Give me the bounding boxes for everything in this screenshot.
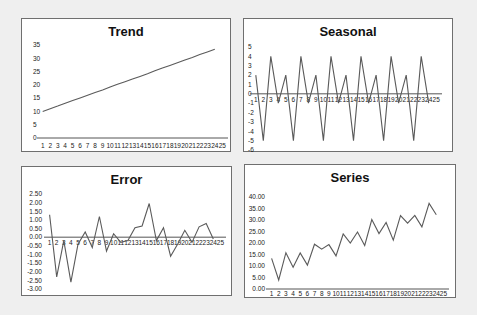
- x-tick-label: 3: [284, 290, 288, 297]
- y-tick-label: -3.00: [27, 285, 42, 292]
- x-tick-label: 4: [69, 239, 73, 246]
- y-tick-label: -4: [248, 128, 254, 135]
- x-tick-label: 25: [219, 142, 227, 149]
- y-tick-label: 0.00: [252, 285, 265, 292]
- y-tick-label: 1.00: [29, 216, 42, 223]
- x-tick-label: 4: [291, 290, 295, 297]
- y-tick-label: -0.50: [27, 242, 42, 249]
- x-tick-label: 5: [298, 290, 302, 297]
- y-tick-label: -3: [248, 118, 254, 125]
- x-tick-label: 8: [98, 239, 102, 246]
- series-plot: 0.005.0010.0015.0020.0025.0030.0035.0040…: [245, 165, 457, 299]
- x-tick-label: 13: [129, 142, 137, 149]
- y-tick-label: -2.00: [27, 268, 42, 275]
- y-tick-label: 15.00: [249, 251, 266, 258]
- y-tick-label: 15: [33, 94, 41, 101]
- y-tick-label: 1.50: [29, 208, 42, 215]
- series-chart: Series 0.005.0010.0015.0020.0025.0030.00…: [244, 164, 456, 298]
- y-tick-label: 10.00: [249, 262, 266, 269]
- x-tick-label: 2: [48, 142, 52, 149]
- x-tick-label: 20: [181, 142, 189, 149]
- x-tick-label: 23: [204, 142, 212, 149]
- y-tick-label: -2.50: [27, 277, 42, 284]
- x-tick-label: 8: [93, 142, 97, 149]
- y-tick-label: 30.00: [249, 216, 266, 223]
- x-tick-label: 9: [101, 142, 105, 149]
- x-tick-label: 9: [327, 290, 331, 297]
- trend-plot: 0510152025303512345678910111213141516171…: [22, 19, 232, 153]
- x-tick-label: 25: [217, 239, 225, 246]
- error-chart: Error 2.502.001.501.000.500.00-0.50-1.00…: [21, 166, 232, 296]
- y-tick-label: -6: [248, 146, 254, 153]
- y-tick-label: 3: [248, 62, 252, 69]
- x-tick-label: 1: [41, 142, 45, 149]
- y-tick-label: -1.50: [27, 259, 42, 266]
- x-tick-label: 5: [71, 142, 75, 149]
- y-tick-label: 35: [33, 41, 41, 48]
- x-tick-label: 9: [314, 96, 318, 103]
- x-tick-label: 6: [292, 96, 296, 103]
- x-tick-label: 21: [189, 142, 197, 149]
- y-tick-label: 20: [33, 81, 41, 88]
- x-tick-label: 7: [313, 290, 317, 297]
- x-tick-label: 1: [48, 239, 52, 246]
- y-tick-label: 20.00: [249, 239, 266, 246]
- x-tick-label: 6: [306, 290, 310, 297]
- x-tick-label: 24: [211, 142, 219, 149]
- x-tick-label: 18: [166, 142, 174, 149]
- x-tick-label: 7: [86, 142, 90, 149]
- x-tick-label: 5: [284, 96, 288, 103]
- y-tick-label: 0.00: [29, 233, 42, 240]
- y-tick-label: -1.00: [27, 251, 42, 258]
- x-tick-label: 6: [83, 239, 87, 246]
- y-tick-label: 2.00: [29, 199, 42, 206]
- x-tick-label: 12: [121, 142, 129, 149]
- y-tick-label: 2: [248, 71, 252, 78]
- data-line: [272, 203, 437, 280]
- y-tick-label: 30: [33, 55, 41, 62]
- x-tick-label: 3: [269, 96, 273, 103]
- x-tick-label: 10: [106, 142, 114, 149]
- y-tick-label: 4: [248, 53, 252, 60]
- trend-chart: Trend 0510152025303512345678910111213141…: [21, 18, 231, 152]
- x-tick-label: 2: [261, 96, 265, 103]
- x-tick-label: 2: [277, 290, 281, 297]
- x-tick-label: 17: [159, 142, 167, 149]
- x-tick-label: 18: [380, 96, 388, 103]
- y-tick-label: -2: [248, 109, 254, 116]
- x-tick-label: 1: [254, 96, 258, 103]
- x-tick-label: 14: [136, 142, 144, 149]
- x-tick-label: 19: [388, 96, 396, 103]
- y-tick-label: 0: [33, 134, 37, 141]
- data-line: [43, 49, 215, 111]
- x-tick-label: 10: [320, 96, 328, 103]
- y-tick-label: 25.00: [249, 228, 266, 235]
- x-tick-label: 15: [144, 142, 152, 149]
- y-tick-label: 2.50: [29, 190, 42, 197]
- x-tick-label: 1: [270, 290, 274, 297]
- y-tick-label: 1: [248, 81, 252, 88]
- x-tick-label: 4: [63, 142, 67, 149]
- x-tick-label: 8: [320, 290, 324, 297]
- x-tick-label: 2: [55, 239, 59, 246]
- x-tick-label: 23: [418, 96, 426, 103]
- y-tick-label: 0.50: [29, 225, 42, 232]
- x-tick-label: 15: [357, 96, 365, 103]
- x-tick-label: 11: [328, 96, 335, 103]
- x-tick-label: 25: [440, 290, 448, 297]
- x-tick-label: 6: [78, 142, 82, 149]
- y-tick-label: 5: [248, 43, 252, 50]
- y-tick-label: 40.00: [249, 193, 266, 200]
- seasonal-plot: 543210-1-2-3-4-5-61234567891011121314151…: [244, 19, 454, 153]
- error-plot: 2.502.001.501.000.500.00-0.50-1.00-1.50-…: [22, 167, 233, 297]
- x-tick-label: 3: [56, 142, 60, 149]
- y-tick-label: 10: [33, 108, 41, 115]
- y-tick-label: 5: [33, 121, 37, 128]
- y-tick-label: 35.00: [249, 205, 266, 212]
- x-tick-label: 11: [114, 142, 121, 149]
- x-tick-label: 14: [350, 96, 358, 103]
- y-tick-label: -5: [248, 137, 254, 144]
- x-tick-label: 22: [410, 96, 418, 103]
- seasonal-chart: Seasonal 543210-1-2-3-4-5-61234567891011…: [243, 18, 453, 152]
- x-tick-label: 25: [433, 96, 441, 103]
